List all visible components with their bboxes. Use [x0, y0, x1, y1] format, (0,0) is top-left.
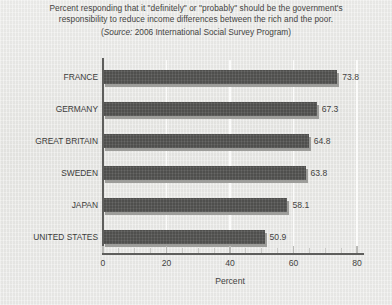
x-tick-major-40 [229, 246, 230, 253]
x-tick-label-0: 0 [88, 257, 118, 269]
x-tick-minor-45 [245, 248, 246, 253]
x-tick-minor-50 [261, 248, 262, 253]
x-tick-major-60 [293, 246, 294, 253]
x-tick-minor-70 [325, 248, 326, 253]
x-tick-minor-30 [198, 248, 199, 253]
x-tick-label-20: 20 [152, 257, 182, 269]
x-axis-ticks-group: 020406080 [0, 0, 392, 305]
x-tick-minor-25 [182, 248, 183, 253]
x-tick-label-60: 60 [279, 257, 309, 269]
x-tick-minor-15 [150, 248, 151, 253]
x-tick-minor-55 [277, 248, 278, 253]
x-tick-minor-35 [214, 248, 215, 253]
x-tick-major-20 [166, 246, 167, 253]
x-tick-label-40: 40 [215, 257, 245, 269]
x-tick-minor-5 [118, 248, 119, 253]
x-tick-major-0 [102, 246, 103, 253]
x-tick-minor-75 [341, 248, 342, 253]
x-tick-minor-10 [134, 248, 135, 253]
bar-chart-figure: Percent responding that it "definitely" … [0, 0, 392, 305]
x-tick-label-80: 80 [342, 257, 372, 269]
x-tick-major-80 [356, 246, 357, 253]
x-tick-minor-65 [309, 248, 310, 253]
x-axis-title: Percent [103, 275, 357, 287]
